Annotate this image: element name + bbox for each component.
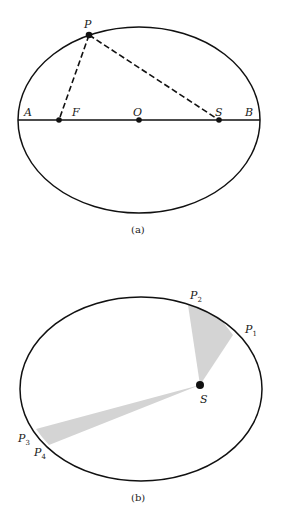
caption-b: (b) [131,492,145,503]
figure-a: P A F O S B (a) [18,18,260,235]
label-O: O [133,106,142,119]
label-A: A [23,106,32,119]
label-F: F [71,106,80,119]
label-P2: P2 [189,289,202,304]
label-P3: P3 [17,432,30,447]
label-S-b: S [200,393,208,406]
point-P [86,32,93,39]
label-P4: P4 [33,446,46,461]
wedge-P3-P4 [36,385,200,445]
point-S-b [196,381,204,389]
caption-a: (a) [131,224,145,235]
ellipse-b [20,297,262,481]
label-P: P [83,18,92,31]
ellipse-diagrams: P A F O S B (a) S P2 P1 P3 P4 (b) [0,0,294,519]
figure-b: S P2 P1 P3 P4 (b) [17,289,262,503]
label-P1: P1 [244,323,257,338]
label-B: B [244,106,253,119]
label-S: S [215,106,223,119]
wedge-P1-P2 [188,305,233,385]
point-F [56,117,62,123]
dashed-line-PS [89,35,219,120]
